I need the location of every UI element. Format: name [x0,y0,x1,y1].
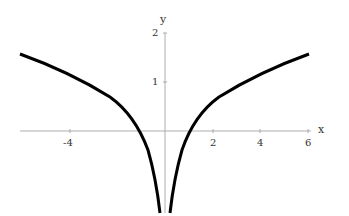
y-tick-label-2: 2 [152,28,158,38]
y-axis-label: y [160,14,166,25]
x-tick-label-4: 4 [257,138,263,148]
curve-right-branch [170,54,309,213]
x-tick-label-2: 2 [210,138,216,148]
x-tick-label-neg4: -4 [63,138,73,148]
curve-left-branch [20,54,160,213]
plot-area [0,0,349,216]
x-axis-label: x [318,124,324,135]
x-tick-label-6: 6 [305,138,311,148]
y-tick-label-1: 1 [152,77,158,87]
